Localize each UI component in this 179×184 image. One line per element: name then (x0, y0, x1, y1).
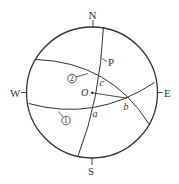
center-point (91, 92, 93, 94)
curve-2-leader (76, 74, 88, 78)
celestial-sphere-diagram: N S W E P O c a b 2 1 (0, 0, 179, 184)
p-leader (102, 59, 107, 62)
a-label: a (93, 108, 98, 119)
o-to-b-line (92, 93, 127, 98)
curve-2-label: 2 (70, 74, 74, 83)
east-label: E (164, 87, 171, 99)
north-label: N (89, 9, 97, 21)
south-label: S (88, 165, 94, 177)
o-label: O (81, 87, 88, 98)
diagram-canvas: N S W E P O c a b 2 1 (0, 0, 179, 184)
p-label: P (108, 56, 114, 68)
curve-1-label: 1 (64, 116, 68, 125)
b-label: b (124, 101, 129, 112)
west-label: W (10, 87, 21, 99)
curve-1-leader (59, 112, 64, 118)
c-label: c (100, 77, 105, 88)
